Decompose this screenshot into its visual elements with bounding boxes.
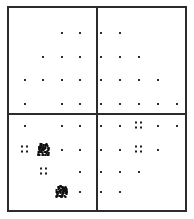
cluster-speck: [44, 148, 46, 150]
panel-divider-horizontal: [7, 113, 187, 115]
cluster-speck: [61, 195, 63, 197]
data-point: [157, 79, 159, 81]
cluster-speck: [57, 195, 59, 197]
cluster-speck: [40, 173, 42, 175]
data-point: [79, 79, 81, 81]
cluster-speck: [46, 144, 48, 146]
scatter-figure: [0, 0, 194, 219]
cluster-speck: [41, 146, 43, 148]
data-point: [138, 56, 140, 58]
cluster-speck: [21, 151, 23, 153]
data-point-cluster: [21, 146, 29, 155]
data-point: [79, 191, 81, 193]
cluster-speck: [140, 127, 142, 129]
cluster-speck: [48, 147, 50, 149]
data-point: [24, 79, 26, 81]
data-point: [79, 32, 81, 34]
data-point: [100, 79, 102, 81]
data-point-cluster: [40, 168, 48, 177]
data-point: [100, 32, 102, 34]
data-point: [24, 125, 26, 127]
data-point: [157, 103, 159, 105]
data-point: [119, 103, 121, 105]
data-point: [100, 149, 102, 151]
cluster-speck: [140, 151, 142, 153]
data-point-cluster: [135, 146, 143, 155]
data-point: [176, 103, 178, 105]
data-point: [100, 56, 102, 58]
cluster-speck: [135, 122, 137, 124]
data-point: [157, 149, 159, 151]
cluster-speck: [66, 193, 68, 195]
data-point: [138, 79, 140, 81]
data-point: [157, 125, 159, 127]
data-point: [119, 125, 121, 127]
cluster-speck: [60, 189, 62, 191]
cluster-speck: [43, 154, 45, 156]
data-point: [61, 103, 63, 105]
cluster-speck: [40, 168, 42, 170]
cluster-speck: [41, 143, 43, 145]
data-point: [61, 125, 63, 127]
cluster-speck: [135, 127, 137, 129]
cluster-speck: [21, 146, 23, 148]
cluster-speck: [39, 154, 41, 156]
data-point: [61, 32, 63, 34]
data-point: [79, 149, 81, 151]
data-point: [119, 79, 121, 81]
cluster-speck: [45, 168, 47, 170]
data-point: [42, 79, 44, 81]
data-point: [100, 125, 102, 127]
panel-divider-vertical: [96, 6, 98, 212]
data-point: [79, 103, 81, 105]
data-point-cluster: [38, 143, 51, 157]
data-point: [100, 103, 102, 105]
cluster-speck: [45, 173, 47, 175]
data-point: [61, 149, 63, 151]
data-point: [119, 32, 121, 34]
data-point: [61, 79, 63, 81]
data-point: [119, 56, 121, 58]
data-point-cluster: [56, 185, 69, 199]
data-point: [119, 171, 121, 173]
data-point: [100, 191, 102, 193]
cluster-speck: [60, 185, 62, 187]
cluster-speck: [26, 151, 28, 153]
cluster-speck: [57, 193, 59, 195]
data-point: [119, 191, 121, 193]
data-point: [24, 103, 26, 105]
cluster-speck: [45, 151, 47, 153]
data-point: [138, 103, 140, 105]
data-point: [119, 149, 121, 151]
data-point-cluster: [135, 122, 143, 131]
data-point: [100, 171, 102, 173]
cluster-speck: [65, 188, 67, 190]
cluster-speck: [135, 151, 137, 153]
data-point: [79, 171, 81, 173]
data-point: [79, 56, 81, 58]
data-point: [79, 125, 81, 127]
data-point: [176, 125, 178, 127]
data-point: [61, 56, 63, 58]
cluster-speck: [140, 146, 142, 148]
cluster-speck: [140, 122, 142, 124]
cluster-speck: [135, 146, 137, 148]
cluster-speck: [41, 149, 43, 151]
cluster-speck: [47, 154, 49, 156]
data-point: [42, 56, 44, 58]
cluster-speck: [26, 146, 28, 148]
cluster-speck: [65, 196, 67, 198]
data-point: [138, 171, 140, 173]
